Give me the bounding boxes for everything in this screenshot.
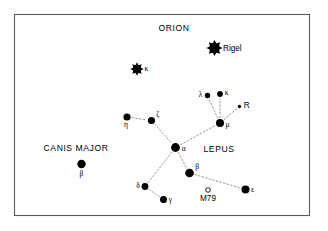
star-label-epsilon-lep: ε [251, 185, 254, 194]
constellation-label-orion: ORION [159, 23, 190, 33]
star-label-beta-cma: β [80, 169, 84, 178]
star-glyph-dot [238, 105, 241, 108]
star-label-r-leporis: R [244, 101, 250, 110]
constellation-label-lepus: LEPUS [204, 144, 235, 154]
star-label-eta-lep: η [124, 120, 128, 129]
star-glyph-dot [242, 186, 250, 194]
constellation-label-canis-major: CANIS MAJOR [44, 143, 109, 153]
star-glyph-dot [148, 117, 155, 124]
star-label-zeta-lep: ζ [156, 110, 159, 119]
star-label-rigel: Rigel [223, 44, 242, 53]
star-glyph-dot [216, 119, 224, 127]
star-label-delta-lep: δ [136, 181, 140, 190]
star-chart-figure: RigelκλκRμηζαβδγεβ M79 ORIONCANIS MAJORL… [0, 0, 328, 231]
sky-map-canvas: RigelκλκRμηζαβδγεβ M79 ORIONCANIS MAJORL… [0, 0, 328, 231]
star-label-gamma-lep: γ [168, 195, 173, 204]
star-glyph-dot [205, 93, 210, 98]
star-epsilon-lep[interactable]: ε [242, 185, 255, 194]
deep-sky-object-label-m79: M79 [200, 194, 216, 203]
star-label-kappa-lep: κ [225, 88, 229, 97]
star-label-mu-lep: μ [226, 120, 230, 129]
chart-frame-border [15, 15, 310, 216]
star-glyph-dot [160, 196, 167, 203]
star-label-beta-lep: β [195, 162, 199, 171]
star-glyph-dot [171, 143, 180, 152]
star-glyph-dot [133, 65, 142, 74]
star-label-alpha-lep: α [182, 144, 186, 153]
star-label-kappa-orionis: κ [145, 64, 149, 73]
star-glyph-dot [185, 169, 194, 178]
star-glyph-dot [142, 183, 149, 190]
star-glyph-dot [209, 43, 219, 53]
star-glyph-dot [77, 160, 85, 168]
star-label-lambda-lep: λ [199, 90, 203, 99]
star-glyph-dot [217, 91, 223, 97]
